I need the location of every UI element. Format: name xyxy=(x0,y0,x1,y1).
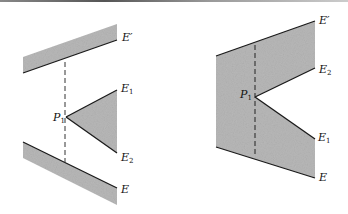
bottom-band-e xyxy=(23,142,117,205)
label-e1: E1 xyxy=(317,131,331,145)
shaded-region xyxy=(216,21,315,178)
label-e: E xyxy=(120,183,129,196)
label-e: E xyxy=(318,171,327,184)
label-p1: P1 xyxy=(52,111,65,125)
right-panel: E′ E2 P1 E1 E xyxy=(216,14,332,184)
left-panel: E′ E1 P1 E2 E xyxy=(23,24,134,205)
triangle-region xyxy=(66,90,117,153)
diagram-canvas: E′ E1 P1 E2 E E′ E2 P1 E1 E xyxy=(0,0,348,214)
label-e-prime: E′ xyxy=(318,14,330,27)
label-e-prime: E′ xyxy=(121,31,133,44)
label-e2: E2 xyxy=(120,151,134,165)
top-band-e-prime xyxy=(23,24,117,73)
label-e1: E1 xyxy=(120,82,134,96)
label-e2: E2 xyxy=(318,63,332,77)
